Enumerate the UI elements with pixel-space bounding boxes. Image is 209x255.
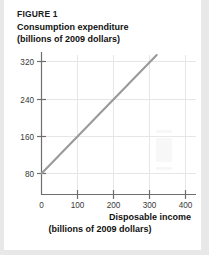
consumption-function-line (42, 55, 157, 173)
x-tick-label-300: 300 (143, 201, 157, 210)
x-tick-label-100: 100 (71, 201, 85, 210)
x-tick-label-400: 400 (179, 201, 193, 210)
x-axis-title-line1: Disposable income (109, 212, 191, 222)
y-tick-label-320: 320 (20, 58, 34, 67)
x-tick-label-200: 200 (107, 201, 121, 210)
x-axis-title: Disposable income (billions of 2009 doll… (11, 212, 191, 235)
y-tick-label-240: 240 (20, 96, 34, 105)
figure-card: FIGURE 1 Consumption expenditure (billio… (4, 0, 201, 250)
y-tick-label-80: 80 (25, 170, 35, 179)
grid-horizontal (41, 62, 196, 174)
x-axis-title-line2: (billions of 2009 dollars) (11, 224, 191, 236)
watermark-artifact (156, 130, 172, 170)
x-tick-label-0: 0 (39, 201, 44, 210)
y-tick-label-160: 160 (20, 133, 34, 142)
